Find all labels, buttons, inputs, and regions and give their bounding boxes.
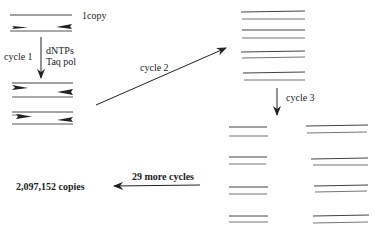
forward-primer-icon (12, 26, 28, 29)
initial-duplex (10, 15, 72, 31)
result-copies-label: 2,097,152 copies (16, 181, 85, 192)
reverse-primer-icon (56, 24, 72, 29)
pcr-diagram (0, 0, 374, 240)
initial-copy-label: 1copy (82, 10, 106, 21)
cycle2-label: cycle 2 (140, 62, 169, 73)
reagents-label-dntps: dNTPs (46, 45, 74, 56)
reagents-label-taq: Taq pol (46, 56, 76, 67)
cycle1-duplexes (12, 83, 73, 124)
cycle3-label: cycle 3 (286, 92, 315, 103)
cycle2-duplexes (241, 11, 305, 80)
more-cycles-label: 29 more cycles (132, 171, 194, 182)
more-cycles-arrow-icon (114, 185, 200, 186)
cycle2-arrow-icon (96, 48, 226, 105)
cycle3-duplexes-right (306, 125, 369, 223)
cycle3-duplexes-left (229, 127, 268, 222)
cycle1-label: cycle 1 (4, 51, 33, 62)
